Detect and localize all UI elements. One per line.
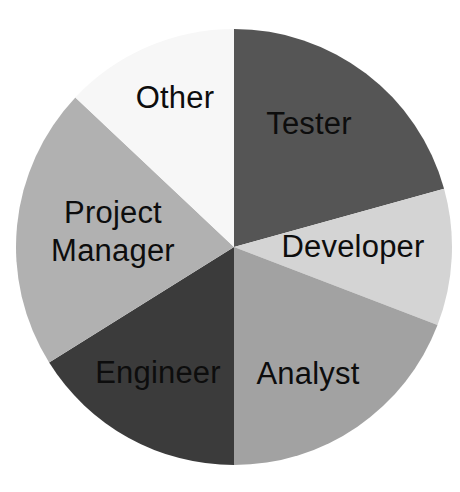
pie-label-line: Other bbox=[136, 80, 215, 115]
pie-label-line: Engineer bbox=[95, 355, 221, 390]
pie-slice-label-engineer: Engineer bbox=[95, 355, 221, 390]
pie-label-line: Manager bbox=[51, 233, 175, 268]
pie-slice-label-other: Other bbox=[136, 80, 215, 115]
pie-chart: TesterDeveloperAnalystEngineerProjectMan… bbox=[0, 0, 460, 492]
pie-label-line: Tester bbox=[266, 106, 352, 141]
pie-label-line: Project bbox=[64, 195, 162, 230]
pie-label-line: Analyst bbox=[256, 356, 359, 391]
pie-chart-container: TesterDeveloperAnalystEngineerProjectMan… bbox=[0, 0, 460, 492]
pie-slice-label-analyst: Analyst bbox=[256, 356, 359, 391]
pie-slice-label-tester: Tester bbox=[266, 106, 352, 141]
pie-slice-label-developer: Developer bbox=[281, 229, 424, 264]
pie-label-line: Developer bbox=[281, 229, 424, 264]
